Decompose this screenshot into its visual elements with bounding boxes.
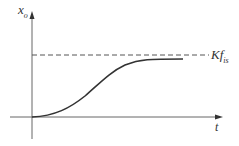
x-axis-label: t	[215, 121, 218, 133]
y-axis-label: xo	[18, 3, 28, 20]
x-axis-arrow-icon	[215, 115, 223, 120]
asymptote-label: Kfis	[211, 48, 229, 65]
y-axis-arrow-icon	[30, 11, 35, 19]
diagram-canvas: xo t Kfis	[0, 0, 239, 146]
response-curve	[32, 59, 183, 117]
plot-graphics	[0, 0, 239, 146]
